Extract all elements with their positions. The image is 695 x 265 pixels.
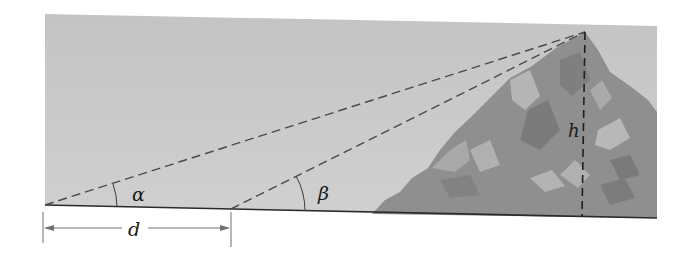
height-label: h bbox=[568, 120, 580, 141]
distance-label: d bbox=[128, 218, 140, 240]
beta-label: β bbox=[317, 182, 329, 204]
angle-of-elevation-diagram: α β h d bbox=[0, 0, 695, 265]
alpha-label: α bbox=[132, 183, 145, 205]
